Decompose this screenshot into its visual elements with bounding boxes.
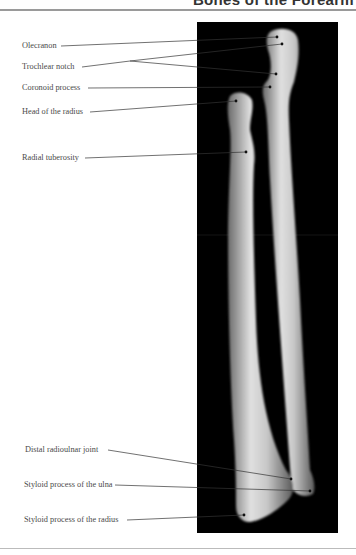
label-styloid-process-ulna: Styloid process of the ulna [24,480,113,490]
label-distal-radioulnar-joint: Distal radioulnar joint [25,445,98,455]
footer-rule [0,548,356,549]
label-head-of-radius: Head of the radius [22,107,83,117]
label-styloid-process-radius: Styloid process of the radius [24,515,118,525]
label-coronoid-process: Coronoid process [22,83,80,93]
label-trochlear-notch: Trochlear notch [22,62,74,72]
label-radial-tuberosity: Radial tuberosity [22,153,79,163]
label-olecranon: Olecranon [22,41,57,51]
